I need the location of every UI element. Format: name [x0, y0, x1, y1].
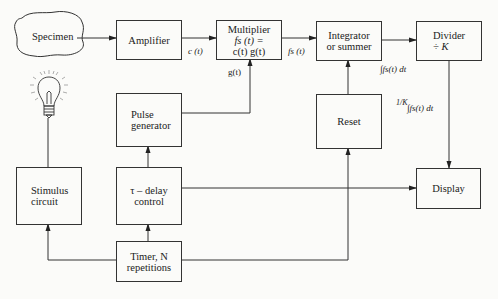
edge-label-fs-t: fs (t): [288, 46, 305, 56]
amplifier-label: Amplifier: [128, 35, 169, 46]
timer-line1: Timer, N: [130, 251, 168, 262]
display-block: Display: [416, 168, 481, 209]
divider-block: Divider ÷ K: [416, 21, 482, 61]
lightbulb-icon: [30, 70, 68, 118]
timer-line2: repetitions: [127, 262, 171, 273]
edge-label-scaled-integral-fraction: 1/K: [396, 98, 408, 108]
edge-label-scaled-integral: ∫fs(t) dt: [407, 103, 433, 113]
pulse-generator-line2: generator: [131, 120, 171, 131]
edge-label-integral: ∫fs(t) dt: [380, 64, 406, 74]
reset-label: Reset: [337, 116, 360, 127]
stimulus-line1: Stimulus: [31, 185, 68, 196]
display-label: Display: [432, 183, 465, 194]
pulse-generator-block: Pulse generator: [116, 93, 182, 147]
edge-label-g-t: g(t): [228, 67, 241, 77]
multiplier-formula-line1: fs (t) =: [234, 35, 263, 46]
timer-block: Timer, N repetitions: [116, 241, 182, 282]
amplifier-block: Amplifier: [116, 20, 182, 60]
multiplier-block: Multiplier fs (t) = c(t) g(t): [216, 20, 282, 60]
stimulus-circuit-block: Stimulus circuit: [16, 167, 82, 225]
integrator-line1: Integrator: [328, 30, 369, 41]
multiplier-title: Multiplier: [228, 24, 271, 35]
reset-block: Reset: [316, 94, 382, 149]
integrator-block: Integrator or summer: [316, 21, 382, 61]
delay-line1: τ – delay: [130, 185, 167, 196]
edge-label-c-t: c (t): [188, 46, 203, 56]
delay-control-block: τ – delay control: [116, 167, 182, 225]
specimen-label: Specimen: [32, 31, 73, 42]
multiplier-formula-line2: c(t) g(t): [233, 46, 265, 57]
divider-line2: ÷ K: [433, 41, 448, 52]
divider-line1: Divider: [433, 30, 465, 41]
stimulus-line2: circuit: [31, 196, 58, 207]
delay-line2: control: [134, 196, 164, 207]
pulse-generator-line1: Pulse: [131, 109, 154, 120]
integrator-line2: or summer: [326, 41, 371, 52]
